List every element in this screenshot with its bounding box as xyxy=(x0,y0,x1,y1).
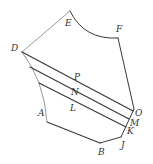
label-j: J xyxy=(119,140,126,150)
geometry-diagram: D E F P N L A B J K M O xyxy=(0,0,153,164)
label-n: N xyxy=(70,87,80,97)
label-o: O xyxy=(135,108,143,118)
edge-f-o xyxy=(118,38,134,109)
label-p: P xyxy=(73,72,81,82)
line-l-k xyxy=(39,83,126,127)
label-d: D xyxy=(10,43,18,53)
diagram-canvas: D E F P N L A B J K M O xyxy=(0,0,153,164)
label-b: B xyxy=(97,147,105,157)
edge-b-a xyxy=(47,122,100,143)
edge-e-f-arc xyxy=(70,11,118,38)
edge-j-b xyxy=(100,137,121,143)
label-f: F xyxy=(115,24,123,34)
label-e: E xyxy=(64,18,72,28)
edge-d-e xyxy=(22,11,70,52)
label-a: A xyxy=(37,108,45,118)
label-m: M xyxy=(129,118,140,128)
label-l: L xyxy=(69,103,76,113)
